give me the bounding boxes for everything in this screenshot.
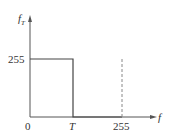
y-axis-label-sub: T (21, 19, 26, 27)
y-tick-255: 255 (8, 53, 25, 65)
threshold-chart: 255 0 T 255 f fT (0, 0, 172, 137)
y-axis-arrow-icon (28, 15, 32, 22)
x-tick-255: 255 (113, 120, 130, 132)
y-axis-label: fT (18, 12, 26, 27)
x-axis-arrow-icon (150, 115, 157, 119)
x-axis-label: f (158, 111, 163, 123)
origin-label: 0 (25, 120, 31, 132)
x-tick-T: T (69, 120, 76, 132)
threshold-curve (30, 59, 122, 117)
